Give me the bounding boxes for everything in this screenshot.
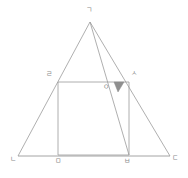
geometry-canvas [0, 0, 188, 178]
vertex-label-interior-point: ㅇ [103, 83, 109, 91]
triangle-right-side [90, 22, 170, 156]
shaded-angle-triangle [114, 82, 124, 92]
geometry-figure: ㄱ ㄴ ㄷ ㄹ ㅅ ㅁ ㅂ ㅇ [0, 0, 188, 178]
cevian-apex-to-bottom-right [90, 22, 129, 155]
vertex-label-rect-bottom-right: ㅂ [124, 157, 130, 165]
vertex-label-rect-top-left: ㄹ [46, 70, 52, 78]
vertex-label-base-left: ㄴ [10, 155, 16, 163]
vertex-label-rect-top-right: ㅅ [131, 69, 137, 77]
vertex-label-apex: ㄱ [86, 6, 92, 14]
triangle-left-side [18, 22, 90, 156]
vertex-label-base-right: ㄷ [172, 154, 178, 162]
vertex-label-rect-bottom-left: ㅁ [55, 157, 61, 165]
